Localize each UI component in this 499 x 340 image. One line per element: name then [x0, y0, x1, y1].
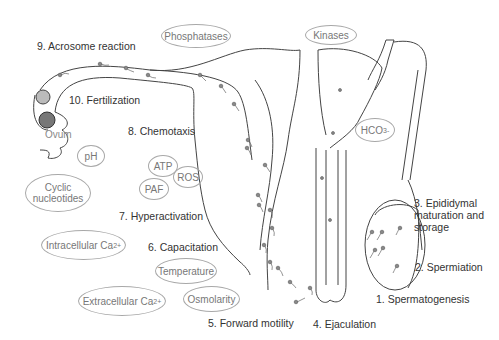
urethra	[316, 148, 330, 302]
factor-osmolarity: Osmolarity	[183, 286, 240, 312]
step-3-line-3: storage	[414, 221, 484, 233]
step-3-epididymal-maturation: 3. Epididymal maturation and storage	[414, 197, 484, 233]
factor-cyclic-nucleotides: Cyclic nucleotides	[25, 174, 91, 212]
ovum-shape	[39, 112, 55, 128]
factor-paf: PAF	[139, 178, 169, 200]
factor-kinases: Kinases	[305, 25, 357, 45]
factor-hco3: HCO3-	[355, 118, 395, 142]
step-9-acrosome-reaction: 9. Acrosome reaction	[37, 40, 136, 52]
uterus-wall	[267, 50, 300, 290]
step-6-capacitation: 6. Capacitation	[148, 241, 218, 253]
step-1-spermatogenesis: 1. Spermatogenesis	[376, 293, 469, 305]
factor-ros: ROS	[173, 166, 203, 188]
step-2-spermiation: 2. Spermiation	[415, 261, 483, 273]
step-3-line-2: maturation and	[414, 209, 484, 221]
ovum-label: Ovum	[45, 129, 72, 140]
factor-phosphatases: Phosphatases	[161, 24, 231, 48]
factor-temperature: Temperature	[155, 258, 217, 284]
step-7-hyperactivation: 7. Hyperactivation	[119, 210, 203, 222]
step-8-chemotaxis: 8. Chemotaxis	[128, 125, 195, 137]
factor-ph: pH	[77, 145, 105, 167]
factor-intracellular-ca: Intracellular Ca2+	[41, 230, 126, 260]
factor-extracellular-ca: Extracellular Ca2+	[78, 286, 166, 316]
step-4-ejaculation: 4. Ejaculation	[313, 318, 376, 330]
sperm-journey-diagram: 9. Acrosome reaction 10. Fertilization 8…	[0, 0, 499, 340]
step-3-line-1: 3. Epididymal	[414, 197, 484, 209]
oviduct-outer	[40, 49, 300, 90]
step-10-fertilization: 10. Fertilization	[69, 94, 140, 106]
step-5-forward-motility: 5. Forward motility	[208, 317, 294, 329]
